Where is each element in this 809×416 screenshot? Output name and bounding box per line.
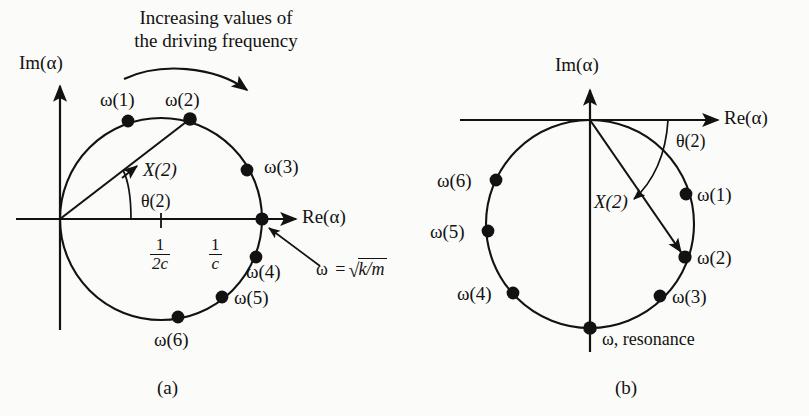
- figure-artwork: [0, 0, 809, 416]
- increasing-frequency-annotation: Increasing values of the driving frequen…: [106, 8, 326, 50]
- panel-b-point-w3: [654, 290, 667, 303]
- panel-b-point-resonance: [583, 321, 597, 335]
- panel-a-tick-label-half-c: 1 2c: [150, 236, 170, 273]
- panel-b-caption: (b): [615, 378, 637, 397]
- panel-b-artwork: [460, 90, 718, 352]
- panel-a-point-label-w3: ω(3): [264, 157, 299, 176]
- panel-b-point-w4: [507, 287, 520, 300]
- panel-b-point-label-w1: ω(1): [697, 185, 732, 204]
- tick-denominator: 2c: [150, 254, 170, 273]
- panel-a-point-w6: [172, 311, 185, 324]
- tick-denominator: c: [209, 254, 222, 273]
- panel-b-point-w5: [482, 225, 495, 238]
- panel-b-point-w6: [490, 174, 503, 187]
- panel-a-real-axis-label: Re(α): [302, 207, 346, 226]
- panel-b-point-label-w5: ω(5): [430, 222, 465, 241]
- annotation-line-1: Increasing values of: [106, 8, 326, 27]
- panel-a-point-w1: [122, 115, 135, 128]
- panel-a-point-label-w6: ω(6): [154, 330, 189, 349]
- resonance-omega-symbol: ω: [316, 259, 328, 279]
- panel-b-imaginary-axis-label: Im(α): [555, 55, 599, 74]
- tick-numerator: 1: [209, 236, 222, 254]
- panel-a-point-label-w1: ω(1): [100, 90, 135, 109]
- increasing-frequency-arrow-icon: [124, 69, 247, 90]
- panel-b-resonance-label: ω, resonance: [602, 330, 695, 348]
- panel-a-caption: (a): [157, 378, 178, 397]
- panel-b-real-axis-label: Re(α): [724, 108, 768, 127]
- panel-a-point-w3: [241, 164, 254, 177]
- panel-a-point-resonance: [255, 212, 268, 225]
- radicand: k/m: [358, 258, 387, 278]
- annotation-line-2: the driving frequency: [106, 31, 326, 50]
- panel-a-vector-label: X(2): [143, 160, 177, 179]
- panel-a-point-w2: [183, 112, 197, 126]
- panel-a-theta-label: θ(2): [141, 192, 171, 210]
- resonance-equals-sign: =: [335, 259, 345, 279]
- sqrt-icon: √k/m: [349, 258, 387, 280]
- panel-a-tick-label-c: 1 c: [209, 236, 222, 273]
- panel-b-point-w1: [680, 188, 693, 201]
- panel-b-theta-label: θ(2): [676, 132, 706, 150]
- panel-a-resonance-label: ω =√k/m: [316, 258, 387, 280]
- panel-b-point-label-w6: ω(6): [437, 171, 472, 190]
- panel-a-point-label-w5: ω(5): [234, 288, 269, 307]
- panel-a-point-w5: [216, 291, 229, 304]
- panel-b-point-label-w3: ω(3): [672, 287, 707, 306]
- panel-a-point-label-w2: ω(2): [165, 90, 200, 109]
- panel-a-imaginary-axis-label: Im(α): [19, 53, 63, 72]
- panel-b-point-w2: [678, 250, 691, 263]
- panel-b-vector-label: X(2): [594, 192, 628, 211]
- panel-b-point-label-w4: ω(4): [457, 284, 492, 303]
- figure-container: Increasing values of the driving frequen…: [0, 0, 809, 416]
- tick-numerator: 1: [150, 236, 170, 254]
- panel-b-vector-x2: [590, 120, 681, 252]
- panel-b-point-label-w2: ω(2): [697, 248, 732, 267]
- panel-a-point-label-w4: ω(4): [246, 262, 281, 281]
